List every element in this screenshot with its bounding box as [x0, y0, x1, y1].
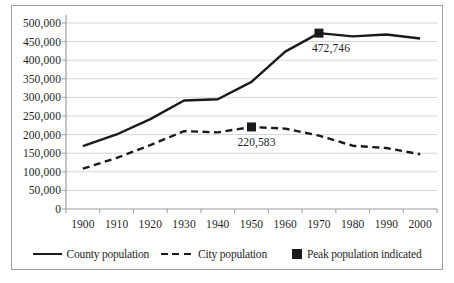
y-axis-tick-label: 300,000 — [23, 91, 61, 104]
legend-item-city-population: City population — [161, 248, 267, 260]
x-axis-tick-label: 1950 — [240, 218, 264, 230]
plot-area: 050,000100,000150,000200,000250,000300,0… — [0, 0, 454, 283]
y-axis-tick-label: 200,000 — [23, 129, 61, 142]
legend-item-peak-population: Peak population indicated — [292, 248, 421, 260]
y-axis-tick-label: 500,000 — [23, 17, 61, 30]
legend-label-peak: Peak population indicated — [307, 248, 421, 260]
x-axis-tick-label: 1920 — [139, 218, 163, 230]
x-axis-tick-label: 1900 — [71, 218, 95, 230]
solid-line-icon — [33, 253, 62, 255]
y-axis-tick-label: 50,000 — [29, 184, 61, 197]
y-axis-tick-label: 350,000 — [23, 73, 61, 86]
legend-item-county-population: County population — [33, 248, 150, 260]
legend-label-county: County population — [67, 248, 150, 260]
peak-marker — [314, 29, 323, 38]
peak-value-label: 472,746 — [312, 42, 350, 55]
x-axis-tick-label: 1940 — [206, 218, 230, 230]
x-axis-tick-label: 2000 — [408, 218, 432, 230]
dashed-line-icon — [161, 253, 193, 255]
legend-label-city: City population — [198, 248, 267, 260]
y-axis-tick-label: 450,000 — [23, 36, 61, 49]
chart-image: 050,000100,000150,000200,000250,000300,0… — [0, 0, 454, 283]
peak-value-label: 220,583 — [237, 136, 275, 149]
peak-marker — [247, 122, 256, 131]
x-axis-tick-label: 1910 — [105, 218, 129, 230]
x-axis-tick-label: 1960 — [274, 218, 298, 230]
y-axis-tick-label: 250,000 — [23, 110, 61, 123]
x-axis-tick-label: 1930 — [172, 218, 196, 230]
chart-legend: County population City population Peak p… — [11, 243, 443, 265]
y-axis-tick-label: 0 — [55, 203, 61, 215]
filled-square-icon — [292, 249, 302, 259]
y-axis-tick-label: 400,000 — [23, 54, 61, 67]
x-axis-tick-label: 1970 — [307, 218, 331, 230]
x-axis-tick-label: 1990 — [375, 218, 399, 230]
x-axis-tick-label: 1980 — [341, 218, 365, 230]
y-axis-tick-label: 100,000 — [23, 166, 61, 179]
y-axis-tick-label: 150,000 — [23, 147, 61, 160]
